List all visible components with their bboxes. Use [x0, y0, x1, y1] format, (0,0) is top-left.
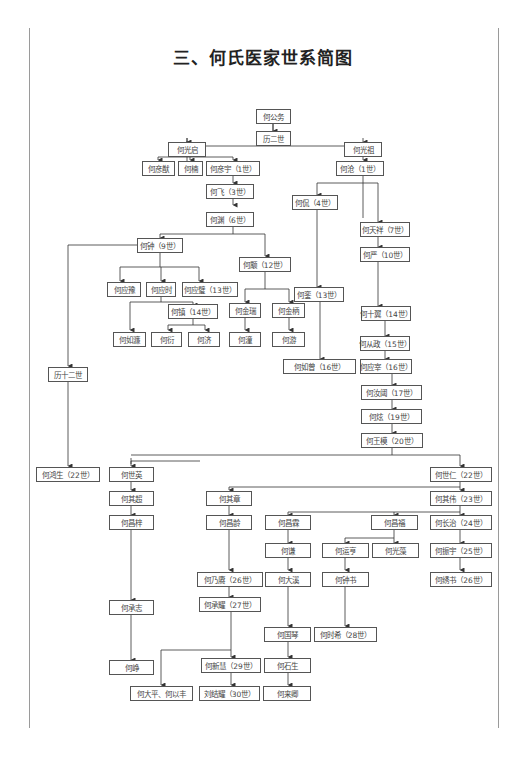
- node-li-shi-er-shi: 历十二世: [48, 367, 88, 382]
- node-he-tianxiang: 何天祥（7世）: [360, 222, 410, 237]
- node-he-chengyao: 何承耀（27世）: [199, 597, 261, 612]
- node-he-ruzeng: 何如曾（16世）: [283, 359, 356, 374]
- node-he-cang: 何沧（1世）: [336, 161, 384, 176]
- node-he-zhen: 何镇（14世）: [168, 304, 218, 319]
- node-he-hongsheng: 何鸿生（22世）: [36, 467, 100, 482]
- node-he-zhongshu: 何钟书: [322, 572, 369, 587]
- node-he-chengzhi: 何承志: [109, 600, 154, 615]
- node-he-jinrui: 何金瑞: [229, 303, 261, 318]
- node-he-yingyu: 何应豫: [107, 282, 141, 297]
- node-he-zhenyu: 何振宇（25世）: [430, 543, 492, 558]
- node-he-yanyu: 何彦宇（1世）: [206, 161, 260, 176]
- node-he-tong: 何潼: [229, 332, 261, 347]
- node-he-rulian: 何如濂: [113, 332, 146, 347]
- node-he-yunheng: 何运亨: [322, 543, 369, 558]
- node-he-zhong: 何钟（9世）: [137, 238, 183, 253]
- node-he-yuan: 何渊（6世）: [206, 212, 254, 227]
- node-he-shisheng: 何石生: [264, 658, 311, 673]
- node-liu-jieyao: 刘结耀（30世）: [199, 686, 260, 701]
- node-he-guangqi: 何光启: [168, 142, 206, 157]
- node-he-jinbing: 何金柄: [272, 303, 305, 318]
- node-he-yingzai: 何应宰（16世）: [360, 359, 412, 374]
- node-he-changzi: 何昌梓: [109, 515, 154, 530]
- node-he-luan: 何銮（13世）: [294, 287, 344, 302]
- node-he-yanyou: 何彦猷: [142, 161, 175, 176]
- node-he-qiwei: 何其伟（23世）: [430, 491, 492, 506]
- node-he-nan: 何楠: [178, 161, 203, 176]
- node-he-yingshi: 何应时: [146, 282, 176, 297]
- node-he-qian: 何谦: [265, 543, 311, 558]
- node-li-er-shi: 历二世: [256, 131, 291, 146]
- node-he-guoqin: 何国琴: [264, 627, 311, 642]
- node-he-congzheng: 何从政（15世）: [360, 336, 410, 351]
- node-he-kan: 何侃（4世）: [292, 195, 338, 210]
- node-he-laiqing: 何来卿: [263, 686, 311, 701]
- node-he-naigeng: 何乃赓（26世）: [197, 572, 263, 587]
- node-he-changfu: 何昌福: [371, 515, 418, 530]
- node-he-you: 何游: [272, 332, 305, 347]
- node-he-xinhui: 何新慧（29世）: [201, 658, 261, 673]
- node-he-shiying: 何世英: [109, 467, 154, 482]
- node-he-yingbi: 何应璧（13世）: [182, 282, 238, 297]
- node-he-shixi: 何时希（28世）: [314, 627, 377, 642]
- node-he-guangzu: 何光祖: [344, 142, 382, 157]
- node-he-daxi: 何大溪: [265, 572, 311, 587]
- node-he-ji: 何济: [188, 332, 220, 347]
- node-he-yan-2: 何衍: [151, 332, 182, 347]
- node-he-shiyi: 何十翼（14世）: [361, 306, 411, 321]
- node-he-qichao: 何其超: [109, 491, 154, 506]
- node-he-changling: 何昌龄: [206, 515, 252, 530]
- node-he-ruyu: 何汝阈（17世）: [361, 385, 422, 400]
- node-he-changzhi: 何长治（24世）: [430, 515, 492, 530]
- node-he-wangmo: 何王模（20世）: [361, 433, 423, 448]
- node-he-guangzao: 何光藻: [372, 543, 419, 558]
- node-he-yan: 何严（10世）: [360, 247, 410, 262]
- node-he-yong: 何颙（12世）: [239, 257, 291, 272]
- node-he-fei: 何飞（3世）: [206, 184, 254, 199]
- node-he-xiushu: 何绣书（26世）: [430, 572, 492, 587]
- node-he-zheng: 何峥: [109, 660, 154, 675]
- node-he-xuan: 何炫（19世）: [361, 409, 422, 424]
- node-he-qizhang: 何其章: [206, 491, 252, 506]
- node-he-daping-he-yifeng: 何大平、何以丰: [130, 686, 193, 701]
- node-he-gongwu: 何公务: [256, 109, 291, 124]
- node-he-shiren: 何世仁（22世）: [430, 467, 492, 482]
- node-he-changlin: 何昌霖: [265, 515, 311, 530]
